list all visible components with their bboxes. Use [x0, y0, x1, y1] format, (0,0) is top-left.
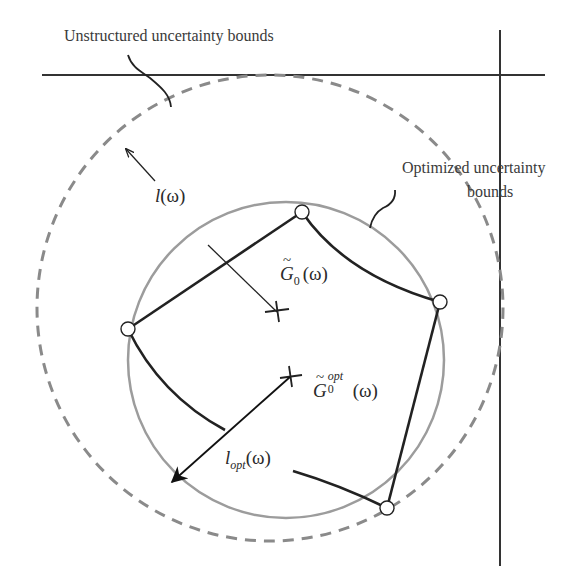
nominal-center-label: G0(ω) [280, 264, 328, 283]
optimized-bounds-label-line1: Optimized uncertainty [402, 160, 546, 176]
radius-optimal-label: lopt(ω) [225, 448, 271, 467]
optimal-center-arg: (ω) [353, 380, 378, 401]
nominal-center-symbol: G [280, 264, 294, 283]
vertex-2 [433, 295, 447, 309]
uncertainty-diagram [0, 0, 572, 569]
radius-optimal-arg: (ω) [246, 447, 271, 468]
optimal-center-sub: 0 [328, 383, 334, 395]
optimized-label-leader [370, 190, 395, 228]
unstructured-uncertainty-circle [37, 75, 503, 541]
radius-unstructured-arrow [126, 149, 155, 181]
boundary-edge-5 [128, 329, 225, 430]
nominal-center-arg: (ω) [303, 263, 328, 284]
optimal-center-symbol: G [313, 381, 327, 400]
radius-optimal-sub: opt [230, 458, 245, 472]
optimal-center-sup: opt [328, 370, 343, 382]
unstructured-bounds-label: Unstructured uncertainty bounds [64, 28, 274, 44]
nominal-center-sub: 0 [294, 274, 300, 288]
radius-unstructured-label: l(ω) [155, 186, 185, 205]
boundary-edge-3 [387, 302, 440, 508]
optimized-bounds-label-line2: bounds [467, 184, 513, 200]
radius-unstructured-arg: (ω) [160, 185, 185, 206]
vertex-4 [121, 322, 135, 336]
vertex-1 [295, 205, 309, 219]
boundary-edge-4 [293, 471, 387, 508]
optimal-center-label: Gopt0(ω) [313, 378, 378, 400]
vertex-3 [380, 501, 394, 515]
radius-unstructured-line [208, 245, 277, 312]
